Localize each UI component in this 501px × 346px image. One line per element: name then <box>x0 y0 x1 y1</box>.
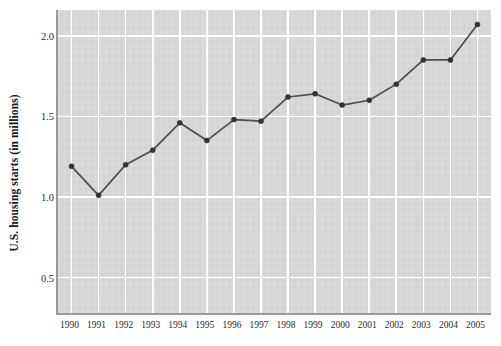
x-tick-label: 2003 <box>412 320 431 330</box>
data-point-marker <box>394 82 399 87</box>
x-tick-label: 2005 <box>466 320 485 330</box>
y-tick-label: 2.0 <box>30 30 54 41</box>
data-point-marker <box>69 164 74 169</box>
data-point-marker <box>340 103 345 108</box>
x-tick-label: 2001 <box>358 320 377 330</box>
x-tick-label: 1993 <box>141 320 160 330</box>
data-point-marker <box>313 91 318 96</box>
y-axis-title: U.S. housing starts (in millions) <box>0 0 28 346</box>
y-tick-label: 0.5 <box>30 272 54 283</box>
x-tick-label: 1996 <box>222 320 241 330</box>
data-point-marker <box>204 138 209 143</box>
data-point-marker <box>231 117 236 122</box>
data-point-marker <box>286 95 291 100</box>
data-point-marker <box>475 22 480 27</box>
y-tick-label: 1.0 <box>30 191 54 202</box>
plot-area <box>56 10 491 315</box>
data-point-marker <box>177 120 182 125</box>
line-chart-svg <box>58 10 491 313</box>
x-tick-label: 1997 <box>249 320 268 330</box>
data-point-marker <box>421 57 426 62</box>
x-tick-label: 1998 <box>277 320 296 330</box>
x-tick-label: 1992 <box>114 320 133 330</box>
data-point-marker <box>448 57 453 62</box>
x-tick-label: 1995 <box>195 320 214 330</box>
x-tick-label: 2002 <box>385 320 404 330</box>
chart-figure: U.S. housing starts (in millions) 0.51.0… <box>0 0 501 346</box>
x-tick-label: 2000 <box>331 320 350 330</box>
y-tick-label: 1.5 <box>30 111 54 122</box>
y-axis-title-text: U.S. housing starts (in millions) <box>8 94 20 251</box>
x-tick-label: 1994 <box>168 320 187 330</box>
x-tick-label: 1999 <box>304 320 323 330</box>
x-tick-label: 1991 <box>87 320 106 330</box>
y-axis-tick-labels: 0.51.01.52.0 <box>26 0 54 346</box>
x-tick-label: 2004 <box>439 320 458 330</box>
data-point-marker <box>96 193 101 198</box>
data-point-marker <box>258 119 263 124</box>
data-point-marker <box>123 162 128 167</box>
x-axis-tick-labels: 1990199119921993199419951996199719981999… <box>0 320 501 342</box>
x-tick-label: 1990 <box>60 320 79 330</box>
data-line <box>72 25 478 196</box>
data-point-marker <box>150 148 155 153</box>
data-point-marker <box>367 98 372 103</box>
